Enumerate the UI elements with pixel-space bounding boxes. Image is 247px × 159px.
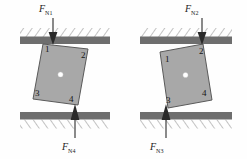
- corner-label-right-4: 4: [202, 88, 207, 98]
- force-label-FN3: FN3: [150, 141, 163, 154]
- top-wall-bar: [140, 37, 232, 45]
- bottom-wall-bar: [140, 112, 232, 120]
- left-diagram: [0, 0, 123, 159]
- top-wall-hatching: [140, 28, 232, 37]
- corner-label-left-4: 4: [69, 94, 74, 104]
- force-label-FN2: FN2: [185, 3, 198, 16]
- force-label-FN1: FN1: [39, 3, 52, 16]
- right-diagram-svg: [124, 0, 247, 159]
- corner-label-left-2: 2: [81, 50, 86, 60]
- bottom-wall-hatching: [140, 120, 232, 129]
- top-wall-bar: [20, 37, 110, 45]
- force-label-FN4: FN4: [62, 141, 75, 154]
- corner-label-right-1: 1: [165, 54, 170, 64]
- top-wall-hatching: [20, 28, 110, 37]
- bottom-wall-hatching: [20, 120, 110, 129]
- left-diagram-svg: [0, 0, 123, 159]
- bottom-wall-bar: [20, 112, 110, 120]
- center-of-mass-dot: [58, 72, 63, 77]
- figure-canvas: FN1 FN4 FN2 FN3 1 2 3 4 1 2 3 4: [0, 0, 247, 159]
- corner-label-right-3: 3: [166, 95, 171, 105]
- center-of-mass-dot: [183, 72, 188, 77]
- corner-label-right-2: 2: [199, 46, 204, 56]
- corner-label-left-1: 1: [45, 44, 50, 54]
- right-diagram: [124, 0, 247, 159]
- corner-label-left-3: 3: [35, 88, 40, 98]
